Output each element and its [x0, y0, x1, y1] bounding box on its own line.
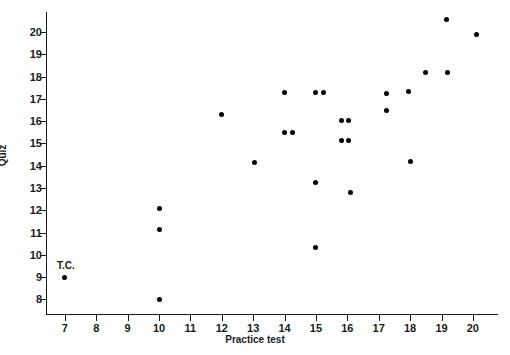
y-tick-label: 19 — [30, 49, 42, 60]
y-tick-label: 9 — [36, 272, 42, 283]
x-tick-label: 8 — [93, 323, 99, 334]
x-tick-mark — [316, 315, 317, 321]
x-tick-mark — [442, 315, 443, 321]
y-axis-title: Quiz — [0, 145, 8, 167]
x-axis-line — [46, 314, 498, 315]
data-point — [282, 90, 287, 95]
x-tick-label: 15 — [310, 323, 322, 334]
data-point — [313, 180, 318, 185]
x-tick-label: 9 — [125, 323, 131, 334]
data-point — [348, 190, 353, 195]
data-point — [252, 160, 257, 165]
x-tick-mark — [159, 315, 160, 321]
data-point — [157, 227, 162, 232]
x-tick-label: 19 — [435, 323, 447, 334]
x-tick-label: 20 — [467, 323, 479, 334]
data-point — [219, 112, 224, 117]
x-tick-mark — [253, 315, 254, 321]
y-tick-label: 20 — [30, 27, 42, 38]
data-point — [474, 32, 479, 37]
data-point — [157, 206, 162, 211]
x-tick-mark — [128, 315, 129, 321]
y-tick-label: 15 — [30, 138, 42, 149]
data-point — [62, 275, 67, 280]
x-tick-label: 18 — [404, 323, 416, 334]
x-tick-mark — [222, 315, 223, 321]
data-point — [408, 159, 413, 164]
data-point — [339, 138, 344, 143]
x-tick-mark — [96, 315, 97, 321]
x-tick-mark — [410, 315, 411, 321]
data-point — [346, 118, 351, 123]
x-tick-label: 17 — [373, 323, 385, 334]
y-tick-label: 16 — [30, 116, 42, 127]
x-tick-label: 16 — [341, 323, 353, 334]
scatter-plot-figure: 891011121314151617181920 789101112131415… — [0, 0, 510, 355]
x-tick-label: 14 — [278, 323, 290, 334]
data-point — [346, 138, 351, 143]
x-tick-mark — [473, 315, 474, 321]
data-point — [282, 130, 287, 135]
y-tick-label: 13 — [30, 183, 42, 194]
plot-area: 891011121314151617181920 789101112131415… — [46, 12, 498, 315]
data-point — [406, 89, 411, 94]
data-point — [445, 70, 450, 75]
data-point — [444, 17, 449, 22]
y-tick-label: 8 — [36, 294, 42, 305]
x-tick-label: 7 — [62, 323, 68, 334]
y-tick-label: 11 — [30, 227, 42, 238]
y-tick-label: 12 — [30, 205, 42, 216]
data-point — [384, 108, 389, 113]
y-tick-label: 14 — [30, 160, 42, 171]
data-point — [321, 90, 326, 95]
x-tick-label: 10 — [153, 323, 165, 334]
x-axis-title: Practice test — [0, 334, 510, 345]
data-point — [384, 91, 389, 96]
data-point — [157, 297, 162, 302]
data-point — [313, 245, 318, 250]
x-tick-label: 13 — [247, 323, 259, 334]
data-point — [313, 90, 318, 95]
x-tick-mark — [285, 315, 286, 321]
y-tick-label: 17 — [30, 93, 42, 104]
y-tick-label: 18 — [30, 71, 42, 82]
y-tick-label: 10 — [30, 249, 42, 260]
x-tick-mark — [347, 315, 348, 321]
point-annotation-label: T.C. — [57, 260, 75, 271]
x-tick-mark — [379, 315, 380, 321]
y-axis-line — [46, 12, 47, 315]
x-tick-label: 11 — [185, 323, 197, 334]
data-point — [290, 130, 295, 135]
x-tick-mark — [190, 315, 191, 321]
x-tick-label: 12 — [216, 323, 228, 334]
x-tick-mark — [65, 315, 66, 321]
data-point — [339, 118, 344, 123]
data-point — [423, 70, 428, 75]
